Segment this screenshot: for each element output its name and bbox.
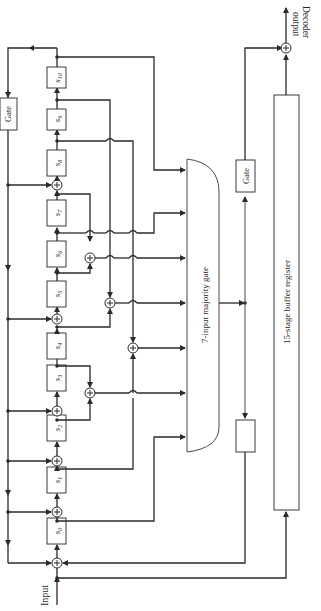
tap-s1-return bbox=[57, 398, 133, 469]
xor-s2-s3-tap bbox=[85, 388, 95, 398]
xor-s4-s5 bbox=[52, 314, 62, 324]
buffer-register-label: 15-stage buffer register bbox=[282, 260, 292, 344]
decoder-output-label-line2: output bbox=[291, 12, 301, 37]
decoder-diagram: s0 s1 s2 s3 s4 s5 s6 s7 s8 s9 s10 Gate bbox=[0, 0, 321, 611]
gate-upper-label: Gate bbox=[241, 168, 251, 184]
xor-s6-s7 bbox=[85, 253, 95, 263]
xor-s7-s8 bbox=[52, 180, 62, 190]
majority-gate-label: 7-input majority gate bbox=[200, 267, 210, 343]
xor-s1-s2 bbox=[52, 456, 62, 466]
xor-s4-s8 bbox=[105, 298, 115, 308]
tap-s10 bbox=[57, 57, 185, 170]
xor-output bbox=[281, 43, 291, 53]
xor-s0-s1 bbox=[52, 507, 62, 517]
gate-lower bbox=[236, 420, 255, 452]
tap-s0 bbox=[57, 437, 185, 521]
xor-s2-s3 bbox=[52, 406, 62, 416]
input-to-buffer-wire bbox=[57, 512, 286, 578]
input-label: Input bbox=[39, 585, 50, 606]
tap-s8 bbox=[114, 141, 133, 231]
xor-s8-xor23 bbox=[128, 343, 138, 353]
decoder-output-label-line1: Decoder bbox=[301, 6, 311, 39]
tap-s6 bbox=[137, 213, 185, 233]
feedback-taps bbox=[5, 183, 51, 563]
gate-feedback-label: Gate bbox=[3, 106, 13, 122]
xor-input bbox=[52, 558, 62, 568]
